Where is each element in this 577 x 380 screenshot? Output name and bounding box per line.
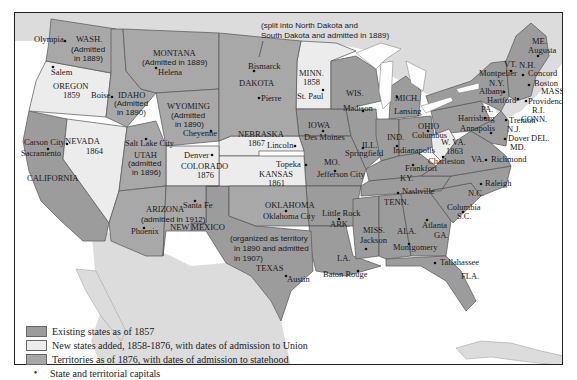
capital-st-paul: St. Paul [297, 91, 324, 101]
capital-salem: Salem [51, 67, 73, 77]
capital-madison: Madison [343, 103, 374, 113]
legend-item-territories: Territories as of 1876, with dates of ad… [26, 352, 288, 366]
state-label-iowa: IOWA [308, 120, 331, 130]
state-label-conn: CONN. [521, 114, 547, 124]
legend-label: Existing states as of 1857 [52, 326, 154, 337]
capital-des-moines: Des Moines [304, 132, 345, 142]
wash-note-2: in 1889) [74, 54, 103, 63]
capital-austin: Austin [287, 274, 310, 284]
kansas-year: 1861 [268, 178, 285, 188]
state-label-sc: S.C. [457, 211, 472, 221]
utah-note-1: (admitted [128, 159, 161, 168]
capital-tallahassee: Tallahassee [440, 257, 479, 267]
state-label-ky: KY. [400, 173, 413, 183]
state-label-ind: IND. [387, 132, 404, 142]
capital-helena: Helena [158, 67, 182, 77]
state-label-del: DEL. [531, 133, 550, 143]
capital-santa-fe: Santa Fe [183, 200, 213, 210]
state-label-wis: WIS. [346, 88, 364, 98]
state-label-fla: FLA. [461, 271, 479, 281]
legend-swatch-existing [26, 326, 47, 337]
state-label-wyoming: WYOMING [167, 101, 210, 111]
state-label-texas: TEXAS [256, 263, 284, 273]
capital-hartford: Hartford [487, 95, 517, 105]
cuba-land [456, 341, 563, 365]
state-label-new-mexico: NEW MEXICO [170, 222, 225, 232]
minn-year: 1858 [303, 77, 320, 87]
wva-year: 1863 [446, 146, 463, 156]
capital-boise: Boise [91, 90, 111, 100]
capital-topeka: Topeka [276, 159, 301, 169]
state-label-nevada: NEVADA [65, 136, 101, 146]
capital-pierre: Pierre [261, 93, 282, 103]
legend-item-capitals: • State and territorial capitals [26, 366, 160, 380]
colorado-year: 1876 [197, 170, 214, 180]
capital-oklahoma-city: Oklahoma City [263, 211, 316, 221]
capital-frankfort: Frankfort [405, 163, 438, 173]
capital-nashville: Nashville [402, 186, 435, 196]
capital-concord: Concord [528, 68, 558, 78]
legend-item-existing: Existing states as of 1857 [26, 324, 154, 338]
state-label-md: MD. [510, 142, 526, 152]
capital-phoenix: Phoenix [131, 226, 160, 236]
state-label-nj: N.J. [507, 124, 521, 134]
state-label-montana: MONTANA [153, 48, 197, 58]
capital-richmond: Richmond [491, 154, 527, 164]
capital-boston: Boston [534, 78, 559, 88]
capital-baton-rouge: Baton Rouge [323, 269, 368, 279]
texas-note-3: in 1907) [234, 254, 263, 263]
nevada-year: 1864 [86, 146, 104, 156]
dakota-note-line2: South Dakota and admitted in 1889) [261, 31, 389, 40]
utah-note-2: in 1896) [132, 168, 161, 177]
wyoming-note-1: (Admitted [171, 111, 205, 120]
capital-dover: Dover [508, 133, 529, 143]
idaho-note-1: (Admitted [114, 99, 148, 108]
legend-label: Territories as of 1876, with dates of ad… [52, 354, 288, 365]
capital-raleigh: Raleigh [485, 178, 512, 188]
state-label-oklahoma: OKLAHOMA [265, 200, 315, 210]
oregon-year: 1859 [63, 90, 80, 100]
state-label-arizona: ARIZONA [146, 204, 185, 214]
state-label-vt: VT. [504, 59, 517, 69]
capital-salt-lake-city: Salt Lake City [125, 138, 175, 148]
capital-dot-icon: • [26, 369, 45, 377]
texas-note-1: (organized as territory [230, 234, 308, 243]
capital-annapolis: Annapolis [460, 123, 495, 133]
nebraska-year: 1867 [248, 138, 265, 148]
capital-jackson: Jackson [360, 235, 388, 245]
capital-cheyenne: Cheyenne [183, 128, 217, 138]
capital-montgomery: Montgomery [393, 242, 438, 252]
capital-sacramento: Sacramento [21, 148, 61, 158]
state-label-va: VA. [471, 154, 484, 164]
capital-olympia: Olympia [34, 34, 64, 44]
capital-indianapolis: Indianapolis [393, 145, 435, 155]
capital-providence: Providence [528, 96, 563, 106]
legend-label: New states added, 1858-1876, with dates … [52, 340, 308, 351]
map-frame: (split into North Dakota and South Dakot… [14, 12, 563, 365]
capital-lansing: Lansing [394, 106, 422, 116]
capital-augusta: Augusta [528, 45, 557, 55]
capital-montpelier: Montpelier [479, 68, 517, 78]
capital-little-rock: Little Rock [322, 208, 361, 218]
capital-lincoln: Lincoln [267, 140, 294, 150]
texas-note-2: in 1890 and admitted [234, 244, 309, 253]
legend-swatch-new-states [26, 340, 47, 351]
state-label-tenn: TENN. [384, 197, 409, 207]
state-label-ark: ARK. [330, 219, 350, 229]
capital-bismarck: Bismarck [248, 61, 281, 71]
state-label-ga: GA. [434, 230, 448, 240]
montana-note: (Admitted in 1889) [142, 58, 208, 67]
legend-swatch-territories [26, 354, 47, 365]
state-label-miss: MISS. [363, 225, 385, 235]
dakota-note-line1: (split into North Dakota and [261, 21, 358, 30]
capital-denver: Denver [184, 150, 209, 160]
state-label-ala: ALA. [397, 226, 417, 236]
legend-item-new-states: New states added, 1858-1876, with dates … [26, 338, 308, 352]
capital-carson-city: Carson City [24, 137, 66, 147]
capital-springfield: Springfield [345, 148, 384, 158]
state-label-nc: N.C. [468, 188, 484, 198]
state-label-ri: R.I. [532, 105, 545, 115]
state-label-dakota: DAKOTA [239, 78, 275, 88]
legend-label: State and territorial capitals [50, 368, 160, 379]
capital-jefferson-city: Jefferson City [317, 169, 366, 179]
